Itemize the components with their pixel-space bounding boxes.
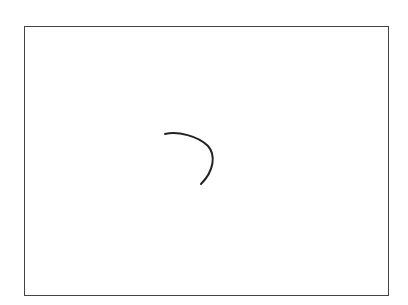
curved-stroke [165, 133, 213, 184]
drawing-layer [0, 0, 408, 305]
